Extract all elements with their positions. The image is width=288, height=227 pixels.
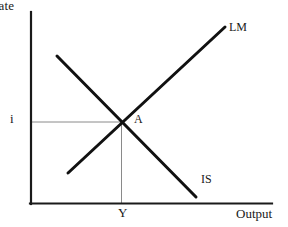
- y-axis-title: rate: [0, 0, 14, 14]
- axes: [30, 12, 272, 204]
- lm-curve: [68, 27, 225, 173]
- is-curve-label: IS: [201, 172, 212, 187]
- equilibrium-point-label: A: [134, 112, 143, 127]
- y-axis-tick-label-i: i: [10, 111, 14, 127]
- is-lm-diagram: rate Output i Y A IS LM: [0, 0, 288, 227]
- is-curve: [57, 56, 196, 197]
- x-axis-title: Output: [236, 206, 272, 222]
- lm-curve-label: LM: [229, 20, 247, 35]
- x-axis-tick-label-y: Y: [118, 205, 127, 221]
